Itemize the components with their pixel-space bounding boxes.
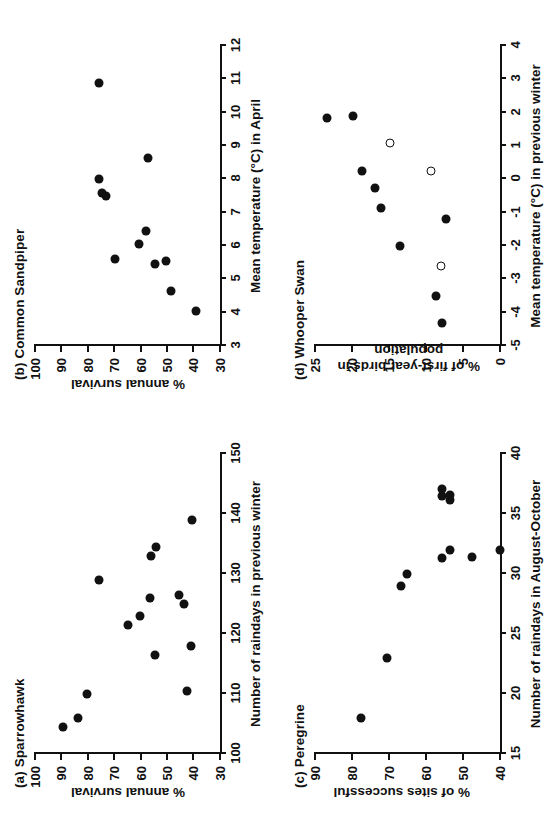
data-point [82, 690, 91, 699]
panel-d-plot-area: 0 5 10 15 20 25 - [314, 46, 500, 346]
panel-a-ytick-80 [87, 754, 89, 760]
panel-d-xlabel-m1: -1 [508, 206, 523, 218]
panel-c-xlabel-40: 40 [508, 446, 523, 460]
panel-b-ytick-90 [60, 346, 62, 352]
data-point [151, 651, 160, 660]
panel-c-ytick-60 [425, 754, 427, 760]
panel-a-ytick-60 [140, 754, 142, 760]
panel-a-y-axis-title: % annual survival [71, 785, 185, 800]
panel-b-xtick-4 [220, 311, 226, 313]
data-point [73, 714, 82, 723]
panel-b-xlabel-3: 3 [228, 341, 243, 348]
panel-b-ylabel-90: 90 [54, 358, 69, 392]
panel-slot-d: (d) Whooper Swan 0 5 10 15 20 [280, 0, 560, 408]
panel-a: (a) Sparrowhawk 30 40 50 60 [0, 408, 280, 816]
panel-b-ytick-100 [34, 346, 36, 352]
panel-a-xtick-110 [220, 692, 226, 694]
data-point-open [385, 138, 394, 147]
panel-c-xlabel-30: 30 [508, 566, 523, 580]
panel-d: (d) Whooper Swan 0 5 10 15 20 [280, 0, 560, 408]
data-point [144, 153, 153, 162]
panel-d-xtick-m1 [500, 211, 506, 213]
panel-c-xlabel-15: 15 [508, 746, 523, 760]
data-point-open [426, 167, 435, 176]
panel-b-xlabel-5: 5 [228, 274, 243, 281]
panel-a-xlabel-110: 110 [228, 683, 243, 704]
panel-c-xtick-40 [500, 452, 506, 454]
panel-b-x-axis [220, 44, 222, 346]
panel-c-xtick-35 [500, 512, 506, 514]
data-point [348, 112, 357, 121]
panel-b-xtick-7 [220, 211, 226, 213]
panel-b: (b) Common Sandpiper 30 40 [0, 0, 280, 408]
panel-a-xlabel-120: 120 [228, 622, 243, 644]
data-point [356, 714, 365, 723]
panel-rotation-wrapper-d: (d) Whooper Swan 0 5 10 15 20 [280, 0, 560, 408]
panel-c-ylabel-40: 40 [493, 766, 508, 800]
data-point [442, 215, 451, 224]
panel-d-xtick-m5 [500, 344, 506, 346]
panel-d-x-axis-title: Mean temperature (°C) in previous winter [528, 64, 543, 327]
panel-a-xtick-100 [220, 752, 226, 754]
panel-a-xtick-150 [220, 452, 226, 454]
panel-c-x-axis-title: Number of raindays in August-October [528, 480, 543, 729]
panel-a-ytick-40 [192, 754, 194, 760]
panel-c-title: (c) Peregrine [292, 704, 307, 788]
data-point [180, 600, 189, 609]
panel-b-xlabel-8: 8 [228, 174, 243, 181]
panel-c-ytick-70 [388, 754, 390, 760]
panel-b-ytick-30 [219, 346, 221, 352]
panel-a-ylabel-100: 100 [28, 766, 43, 800]
panel-c-xlabel-35: 35 [508, 506, 523, 520]
data-point [166, 287, 175, 296]
panel-slot-b: (b) Common Sandpiper 30 40 [0, 0, 280, 408]
panel-a-title: (a) Sparrowhawk [12, 678, 27, 788]
panel-c-xtick-20 [500, 692, 506, 694]
panel-d-y-axis-title-line1: % of first-year birds in [337, 358, 480, 374]
data-point [468, 553, 477, 562]
panel-a-ytick-50 [166, 754, 168, 760]
panel-c-xlabel-20: 20 [508, 686, 523, 700]
panel-rotation-wrapper-c: (c) Peregrine 40 50 60 70 80 90 [280, 408, 560, 816]
data-point [357, 167, 366, 176]
data-point [438, 484, 447, 493]
data-point [438, 554, 447, 563]
panel-a-xlabel-140: 140 [228, 502, 243, 524]
data-point [134, 240, 143, 249]
panel-c-y-axis-title: % of sites successful [333, 785, 470, 800]
panel-b-title: (b) Common Sandpiper [12, 229, 27, 380]
panel-d-xlabel-3: 3 [508, 74, 523, 81]
panel-b-xtick-6 [220, 244, 226, 246]
panel-d-xtick-2 [500, 111, 506, 113]
data-point [432, 292, 441, 301]
panel-c-plot-area: 40 50 60 70 80 90 15 20 25 30 35 [314, 454, 500, 754]
data-point [124, 621, 133, 630]
panel-c-xtick-25 [500, 632, 506, 634]
panel-slot-c: (c) Peregrine 40 50 60 70 80 90 [280, 408, 560, 816]
panel-b-xtick-9 [220, 144, 226, 146]
panel-d-ytick-0 [499, 346, 501, 352]
figure-root: (b) Common Sandpiper 30 40 [0, 0, 560, 816]
panel-c-ytick-50 [462, 754, 464, 760]
data-point [97, 188, 106, 197]
panel-d-ylabel-0: 0 [493, 358, 508, 392]
panel-a-ylabel-90: 90 [54, 766, 69, 800]
panel-c-xlabel-25: 25 [508, 626, 523, 640]
data-point [186, 642, 195, 651]
panel-a-xlabel-150: 150 [228, 442, 243, 464]
data-point [147, 552, 156, 561]
panel-d-x-axis [500, 44, 502, 346]
panel-a-plot-area: 30 40 50 60 70 80 90 100 100 110 [34, 454, 220, 754]
data-point [152, 543, 161, 552]
panel-b-x-axis-title: Mean temperature (°C) in April [248, 99, 263, 293]
panel-a-xtick-120 [220, 632, 226, 634]
panel-b-y-axis-title: % annual survival [71, 377, 185, 392]
panel-rotation-wrapper-a: (a) Sparrowhawk 30 40 50 60 [0, 408, 280, 816]
data-point [322, 113, 331, 122]
data-point [59, 723, 68, 732]
panel-b-xtick-8 [220, 177, 226, 179]
panel-c-ytick-90 [314, 754, 316, 760]
panel-a-x-axis [220, 452, 222, 754]
panel-slot-a: (a) Sparrowhawk 30 40 50 60 [0, 408, 280, 816]
panel-b-ytick-60 [140, 346, 142, 352]
